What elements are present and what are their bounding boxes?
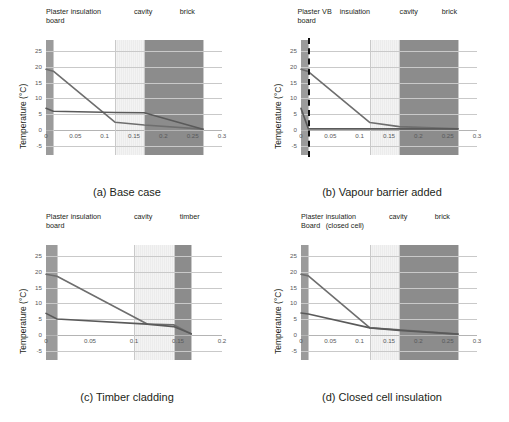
panel-b: Temperature (°C)PlasterboardVBinsulation… [255, 0, 509, 211]
panel-a: Temperature (°C)Plasterboardinsulationca… [0, 0, 254, 211]
panel-d: Temperature (°C)PlasterBoardinsulation(c… [255, 205, 509, 416]
series-layer [255, 205, 509, 416]
panel-c: Temperature (°C)Plasterboardinsulationca… [0, 205, 254, 416]
panel-caption: (d) Closed cell insulation [255, 391, 509, 403]
series-line-dew-point [301, 313, 458, 334]
series-line-dew-point [301, 108, 458, 128]
panel-caption: (c) Timber cladding [0, 391, 254, 403]
series-line-temperature [301, 274, 458, 334]
figure-temperature-profiles: Temperature (°C)Plasterboardinsulationca… [0, 0, 509, 422]
series-line-temperature [46, 274, 191, 334]
panel-caption: (a) Base case [0, 186, 254, 198]
series-line-dew-point [46, 108, 203, 129]
panel-caption: (b) Vapour barrier added [255, 186, 509, 198]
series-line-temperature [301, 69, 458, 129]
series-layer [0, 205, 254, 416]
series-line-dew-point [46, 313, 191, 333]
series-layer [0, 0, 254, 211]
vapour-barrier-line [308, 38, 310, 157]
series-layer [255, 0, 509, 211]
series-line-temperature [46, 69, 203, 129]
